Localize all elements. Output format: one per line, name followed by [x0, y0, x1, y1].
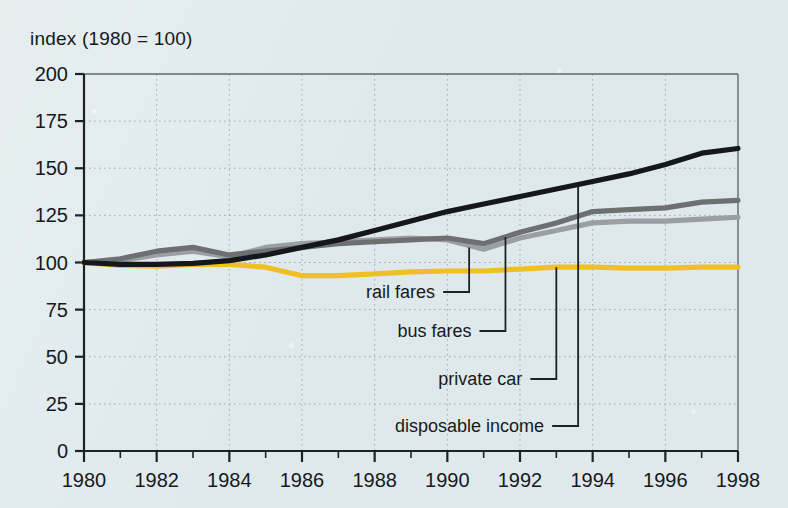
- x-axis-tick-label: 1990: [425, 469, 470, 491]
- chart-figure: index (1980 = 100) 025507510012515017520…: [0, 0, 788, 508]
- x-axis-labels: 1980198219841986198819901992199419961998: [62, 469, 761, 491]
- x-axis-tick-label: 1982: [134, 469, 179, 491]
- x-axis-tick-label: 1994: [570, 469, 615, 491]
- callout-label: rail fares: [366, 282, 435, 302]
- y-axis-tick-label: 75: [46, 299, 68, 321]
- y-axis-tick-label: 100: [35, 252, 68, 274]
- x-axis-tick-label: 1980: [62, 469, 107, 491]
- callout-label: private car: [438, 369, 522, 389]
- data-series: [84, 148, 738, 275]
- y-axis-tick-label: 25: [46, 393, 68, 415]
- x-axis-tick-label: 1992: [498, 469, 543, 491]
- y-axis-tick-label: 200: [35, 63, 68, 85]
- y-axis-tick-label: 50: [46, 346, 68, 368]
- x-axis-tick-label: 1986: [280, 469, 325, 491]
- x-axis-tick-label: 1998: [716, 469, 761, 491]
- x-axis-tick-label: 1996: [643, 469, 688, 491]
- line-chart: 0255075100125150175200 19801982198419861…: [0, 0, 788, 508]
- y-axis-labels: 0255075100125150175200: [35, 63, 68, 462]
- y-axis-tick-label: 0: [57, 440, 68, 462]
- x-axis-tick-label: 1988: [352, 469, 397, 491]
- y-axis-tick-label: 175: [35, 110, 68, 132]
- x-axis-tick-label: 1984: [207, 469, 252, 491]
- callout-label: disposable income: [395, 416, 544, 436]
- y-axis-tick-label: 125: [35, 204, 68, 226]
- callout-label: bus fares: [397, 321, 471, 341]
- y-axis-tick-label: 150: [35, 157, 68, 179]
